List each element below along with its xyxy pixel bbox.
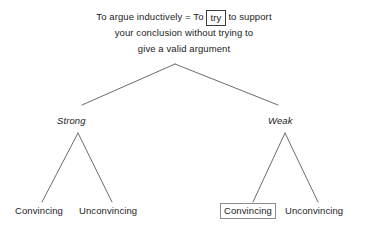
leaf-label-strong-unconvincing: Unconvincing (79, 205, 137, 216)
edge-weak-to-convincing (253, 133, 285, 202)
edge-weak-to-unconvincing (285, 133, 318, 202)
branch-label-strong: Strong (57, 115, 86, 126)
leaf-label-strong-convincing: Convincing (15, 205, 63, 216)
diagram-canvas: To argue inductively = Totryto support y… (0, 0, 368, 232)
edge-strong-to-convincing (42, 133, 78, 202)
edge-strong-to-unconvincing (78, 133, 112, 202)
branch-label-weak: Weak (268, 115, 293, 126)
edge-root-to-weak (175, 64, 278, 105)
root-line-2: your conclusion without trying to (0, 25, 368, 41)
leaf-label-weak-unconvincing: Unconvincing (285, 205, 343, 216)
root-line-1: To argue inductively = Totryto support (0, 9, 368, 25)
boxed-word-try: try (206, 10, 227, 26)
root-line-3: give a valid argument (0, 41, 368, 57)
root-line-1-suffix: to support (228, 11, 271, 22)
edge-root-to-strong (82, 64, 175, 105)
root-node: To argue inductively = Totryto support y… (0, 9, 368, 57)
leaf-label-weak-convincing: Convincing (220, 203, 276, 219)
root-line-1-prefix: To argue inductively = To (96, 11, 203, 22)
